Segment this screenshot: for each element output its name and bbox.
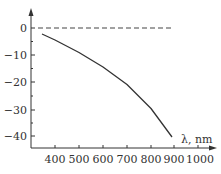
- x-axis-label: λ, nm: [181, 133, 213, 146]
- y-axis-arrow-icon: [29, 8, 34, 16]
- y-tick-label: 0: [20, 22, 27, 35]
- data-curve: [42, 34, 172, 137]
- x-tick-label: 600: [93, 153, 114, 166]
- x-tick-label: 700: [117, 153, 138, 166]
- x-tick-label: 500: [69, 153, 90, 166]
- x-axis: [31, 146, 217, 151]
- x-axis-arrow-icon: [209, 146, 217, 151]
- x-tick-label: 800: [141, 153, 162, 166]
- y-axis: [29, 8, 34, 148]
- x-tick-label: 400: [45, 153, 66, 166]
- x-tick-labels: 400 500 600 700 800 900 1000: [45, 153, 215, 166]
- chart: 0 −10 −20 −30 −40 400 500 600 700 800 90…: [0, 0, 221, 174]
- y-tick-label: −20: [4, 76, 27, 89]
- y-tick-labels: 0 −10 −20 −30 −40: [4, 22, 27, 143]
- y-tick-label: −30: [4, 104, 27, 117]
- y-tick-label: −10: [4, 49, 27, 62]
- x-tick-label: 900: [164, 153, 185, 166]
- y-tick-label: −40: [4, 130, 27, 143]
- x-tick-label: 1000: [186, 153, 214, 166]
- y-ticks: [31, 28, 35, 136]
